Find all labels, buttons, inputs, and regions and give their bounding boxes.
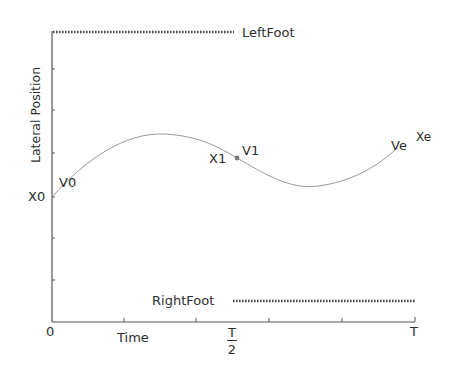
x1-label: X1 (209, 152, 226, 165)
x-ticks (124, 317, 415, 322)
midpoint-marker (235, 156, 240, 161)
x0-label: X0 (28, 190, 45, 203)
v0-label: V0 (59, 176, 76, 189)
x-tick-half: T 2 (227, 326, 237, 356)
xe-label: Xe (416, 131, 431, 143)
left-foot-label: LeftFoot (242, 26, 294, 39)
axes (52, 31, 415, 322)
right-foot-label: RightFoot (152, 294, 214, 307)
x-axis-label: Time (117, 331, 149, 344)
y-axis-label: Lateral Position (28, 67, 43, 163)
v1-label: V1 (242, 144, 259, 157)
x-tick-half-denominator: 2 (227, 341, 237, 356)
x-tick-zero: 0 (46, 325, 54, 338)
ve-label: Ve (391, 139, 407, 152)
x-tick-half-numerator: T (227, 326, 237, 341)
x-tick-end: T (410, 325, 418, 338)
